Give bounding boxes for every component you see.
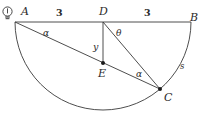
point-dot-C: [158, 87, 162, 91]
arc-length-s: s: [180, 62, 184, 71]
lightbulb-icon: [2, 6, 13, 21]
length-AD: 3: [56, 8, 63, 18]
point-dot-E: [101, 61, 105, 65]
angle-A-alpha: α: [43, 29, 49, 38]
segment-DC: [103, 22, 160, 89]
point-label-E: E: [98, 68, 106, 79]
point-label-B: B: [190, 12, 198, 23]
point-label-A: A: [21, 6, 29, 17]
geometry-figure: ADBEC33αθαys: [0, 0, 200, 127]
length-DE-y: y: [93, 42, 98, 52]
angle-D-theta: θ: [116, 29, 121, 38]
length-DB: 3: [144, 8, 151, 18]
geometry-canvas: [0, 0, 200, 127]
point-label-D: D: [99, 6, 108, 17]
angle-C-alpha: α: [136, 70, 142, 79]
point-label-C: C: [164, 92, 172, 103]
